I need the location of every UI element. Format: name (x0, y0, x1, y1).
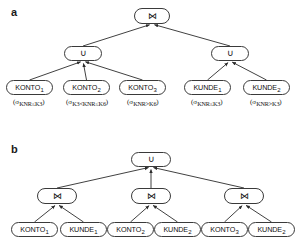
selection-predicate: (σKNR≤K3) (191, 99, 223, 106)
selection-predicate: (σKNR≤K3) (13, 99, 45, 106)
tree-edge (83, 25, 150, 46)
relation-index: 2 (277, 87, 280, 93)
paren-close: ) (279, 98, 281, 106)
join-icon: ⋈ (240, 192, 249, 201)
paren-close: ) (156, 98, 158, 106)
tree-edge (208, 63, 229, 80)
join-icon: ⋈ (147, 192, 156, 201)
join-node: ⋈ (37, 188, 77, 204)
relation-label: KONTO2 (72, 84, 100, 91)
union-node: ∪ (131, 152, 171, 167)
relation-node: KUNDE2 (248, 222, 295, 237)
relation-label: KUNDE2 (252, 84, 280, 91)
relation-node: KONTO3 (119, 80, 166, 95)
union-icon: ∪ (148, 155, 155, 164)
relation-index: 2 (282, 229, 285, 235)
union-icon: ∪ (80, 49, 87, 58)
tree-edge (57, 168, 149, 188)
tree-edge (30, 62, 81, 80)
relation-label: KONTO1 (20, 226, 48, 233)
relation-label: KUNDE2 (257, 226, 285, 233)
selection-predicate: (σKNR>K3) (250, 99, 282, 106)
tree-edge (83, 63, 86, 80)
tree-edge (246, 205, 271, 222)
relation-index: 1 (94, 229, 97, 235)
join-node: ⋈ (224, 188, 264, 204)
predicate-condition: K3<KNR≤K6 (72, 100, 106, 107)
relation-label: KONTO3 (128, 84, 156, 91)
paren-close: ) (106, 98, 108, 106)
tree-edge (153, 168, 244, 188)
tree-edge (154, 25, 230, 46)
relation-node: KUNDE1 (184, 80, 231, 95)
relation-label: KUNDE1 (193, 84, 221, 91)
panel-label-b: b (11, 143, 18, 155)
relation-node: KONTO2 (107, 222, 154, 237)
tree-edge (85, 62, 142, 80)
edge-layer (0, 0, 301, 251)
predicate-condition: KNR>K6 (133, 100, 156, 107)
paren-close: ) (220, 98, 222, 106)
paren-close: ) (42, 98, 44, 106)
relation-node: KUNDE1 (60, 222, 107, 237)
tree-edge (35, 206, 56, 222)
relation-node: KUNDE2 (243, 80, 290, 95)
relation-node: KONTO1 (6, 80, 53, 95)
tree-edge (131, 206, 150, 222)
relation-node: KONTO1 (11, 222, 58, 237)
predicate-condition: KNR≤K3 (19, 100, 42, 107)
relation-label: KUNDE2 (163, 226, 191, 233)
join-node: ⋈ (131, 188, 171, 204)
relation-label: KUNDE1 (69, 226, 97, 233)
selection-predicate: (σKNR>K6) (127, 99, 159, 106)
relation-index: 2 (188, 229, 191, 235)
relation-label: KONTO3 (210, 226, 238, 233)
tree-edge (232, 62, 266, 80)
relation-node: KONTO3 (201, 222, 248, 237)
predicate-condition: KNR≤K3 (197, 100, 220, 107)
relation-index: 1 (45, 229, 48, 235)
union-node: ∪ (64, 46, 102, 61)
query-tree-figure: ⋈∪∪KONTO1KONTO2KONTO3KUNDE1KUNDE2∪⋈⋈⋈KON… (0, 0, 301, 251)
union-icon: ∪ (227, 49, 234, 58)
relation-index: 2 (141, 229, 144, 235)
relation-node: KONTO2 (63, 80, 110, 95)
tree-edge (153, 205, 177, 222)
panel-label-a: a (11, 6, 17, 18)
join-icon: ⋈ (148, 12, 157, 21)
join-icon: ⋈ (53, 192, 62, 201)
tree-edge (59, 205, 83, 222)
union-node: ∪ (211, 46, 249, 61)
relation-index: 3 (153, 87, 156, 93)
join-node: ⋈ (134, 8, 170, 24)
relation-index: 1 (218, 87, 221, 93)
relation-label: KONTO2 (116, 226, 144, 233)
relation-node: KUNDE2 (154, 222, 201, 237)
relation-index: 3 (235, 229, 238, 235)
relation-index: 1 (40, 87, 43, 93)
predicate-condition: KNR>K3 (256, 100, 279, 107)
relation-index: 2 (97, 87, 100, 93)
selection-predicate: (σK3<KNR≤K6) (66, 99, 108, 106)
relation-label: KONTO1 (15, 84, 43, 91)
tree-edge (225, 206, 243, 222)
